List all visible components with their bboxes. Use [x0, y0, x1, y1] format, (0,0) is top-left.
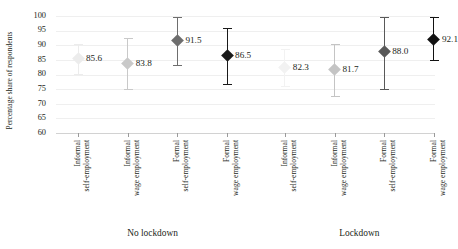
- data-label: 86.5: [235, 51, 251, 60]
- category-label-line2: wage employment: [231, 140, 240, 218]
- error-bar-cap-upper: [124, 38, 133, 39]
- gridline: [56, 75, 435, 76]
- marker-diamond: [428, 33, 441, 46]
- x-axis-group-label: Lockdown: [309, 228, 409, 238]
- y-axis-tick-label: 75: [26, 85, 46, 93]
- y-axis-tick-label: 100: [26, 12, 46, 20]
- error-bar-cap-upper: [74, 44, 83, 45]
- x-axis-line: [56, 133, 435, 134]
- x-axis-tick: [384, 133, 385, 137]
- error-bar-cap-upper: [430, 17, 439, 18]
- x-axis-category-label: Informalwage employment: [121, 140, 135, 218]
- category-label-line1: Formal: [429, 140, 438, 218]
- marker-diamond: [278, 61, 291, 74]
- gridline: [56, 45, 435, 46]
- error-bar-cap-upper: [331, 44, 340, 45]
- data-label: 81.7: [343, 65, 359, 74]
- y-axis-tick-label: 60: [26, 129, 46, 137]
- x-axis-category-label: Informalself-employment: [71, 140, 85, 218]
- y-axis-tick-label: 90: [26, 41, 46, 49]
- plot-area: 85.683.891.586.582.381.788.092.1: [56, 16, 435, 133]
- error-bar-cap-upper: [223, 28, 232, 29]
- gridline: [56, 16, 435, 17]
- error-bar-cap-lower: [281, 86, 290, 87]
- category-label-line1: Informal: [280, 140, 289, 218]
- category-label-line2: wage employment: [132, 140, 141, 218]
- category-label-line2: self-employment: [181, 140, 190, 218]
- y-axis-title: Percentage share of respondents: [0, 0, 18, 160]
- data-label: 88.0: [392, 47, 408, 56]
- error-bar-cap-lower: [430, 60, 439, 61]
- x-axis-tick: [335, 133, 336, 137]
- x-axis-category-label: Formalself-employment: [377, 140, 391, 218]
- error-bar-cap-upper: [281, 49, 290, 50]
- y-axis-tick-label: 70: [26, 100, 46, 108]
- y-axis-tick-label: 65: [26, 114, 46, 122]
- gridline: [56, 31, 435, 32]
- category-label-line2: self-employment: [388, 140, 397, 218]
- error-bar-cap-lower: [331, 96, 340, 97]
- x-axis-tick: [227, 133, 228, 137]
- category-label-line1: Formal: [222, 140, 231, 218]
- data-label: 85.6: [86, 54, 102, 63]
- y-axis-tick-labels: 1009590858075706560: [22, 0, 46, 249]
- x-axis-group-label: No lockdown: [103, 228, 203, 238]
- x-axis-category-label: Formalwage employment: [220, 140, 234, 218]
- x-axis-category-label: Informalwage employment: [328, 140, 342, 218]
- marker-diamond: [72, 52, 85, 65]
- x-axis-tick: [434, 133, 435, 137]
- x-axis-category-label: Formalself-employment: [170, 140, 184, 218]
- error-bar-cap-upper: [173, 17, 182, 18]
- category-label-line2: self-employment: [289, 140, 298, 218]
- data-label: 82.3: [293, 63, 309, 72]
- y-axis-tick-label: 95: [26, 26, 46, 34]
- error-bar-cap-lower: [380, 89, 389, 90]
- gridline: [56, 118, 435, 119]
- category-label-line1: Informal: [123, 140, 132, 218]
- gridline: [56, 89, 435, 90]
- x-axis-tick: [78, 133, 79, 137]
- gridline: [56, 104, 435, 105]
- x-axis-category-label: Informalself-employment: [278, 140, 292, 218]
- error-bar-cap-lower: [74, 74, 83, 75]
- category-label-line2: wage employment: [438, 140, 447, 218]
- error-bar-cap-upper: [380, 17, 389, 18]
- data-label: 91.5: [185, 36, 201, 45]
- category-label-line1: Informal: [330, 140, 339, 218]
- error-bar-cap-lower: [173, 65, 182, 66]
- y-axis-title-text: Percentage share of respondents: [5, 31, 14, 129]
- category-label-line1: Informal: [73, 140, 82, 218]
- y-axis-tick-label: 85: [26, 56, 46, 64]
- data-label: 83.8: [136, 59, 152, 68]
- x-axis-category-label: Formalwage employment: [427, 140, 441, 218]
- error-bar-cap-lower: [223, 84, 232, 85]
- marker-diamond: [378, 45, 391, 58]
- category-label-line1: Formal: [379, 140, 388, 218]
- x-axis-tick: [128, 133, 129, 137]
- category-label-line2: self-employment: [82, 140, 91, 218]
- y-axis-tick-label: 80: [26, 70, 46, 78]
- error-bar-cap-lower: [124, 89, 133, 90]
- x-axis-tick: [177, 133, 178, 137]
- category-label-line2: wage employment: [339, 140, 348, 218]
- data-label: 92.1: [442, 35, 458, 44]
- x-axis-tick: [285, 133, 286, 137]
